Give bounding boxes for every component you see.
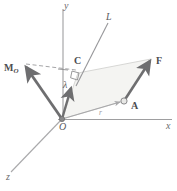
z-axis-label: z <box>6 172 10 182</box>
force-label: F <box>156 56 162 66</box>
point-a-marker <box>121 98 127 104</box>
z-axis-line <box>11 119 62 172</box>
moment-label-subscript: O <box>13 67 18 75</box>
y-axis-label: y <box>64 1 68 11</box>
figure-canvas <box>0 0 177 191</box>
origin-label: O <box>59 122 66 132</box>
moment-label: MO <box>4 63 19 75</box>
lambda-label: λ <box>63 80 67 90</box>
moment-vector-MO <box>26 67 62 119</box>
line-of-action-label: L <box>106 12 112 22</box>
position-vector-label: r <box>99 109 102 117</box>
x-axis-label: x <box>166 121 170 131</box>
point-c-label: C <box>74 56 81 66</box>
dashed-guide-line <box>26 64 76 70</box>
point-a-label: A <box>131 101 138 111</box>
moment-vector-diagram: y x z L C F A MO λ O r <box>0 0 177 191</box>
